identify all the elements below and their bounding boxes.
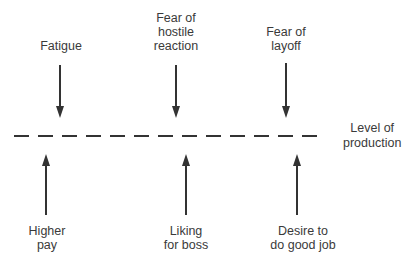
- arrow-down-layoff: [282, 63, 290, 118]
- label-fear-layoff: Fear of layoff: [266, 25, 306, 53]
- label-fear-hostile-reaction: Fear of hostile reaction: [154, 11, 198, 53]
- label-fatigue: Fatigue: [40, 39, 82, 53]
- arrow-up-boss: [182, 154, 190, 215]
- label-level-of-production: Level of production: [343, 121, 401, 151]
- arrow-down-fatigue: [56, 65, 64, 118]
- label-desire-good-job: Desire to do good job: [270, 224, 335, 252]
- arrow-up-pay: [42, 154, 50, 215]
- label-higher-pay: Higher pay: [29, 224, 66, 252]
- arrow-down-hostile: [172, 65, 180, 118]
- arrow-up-job: [293, 154, 301, 215]
- label-liking-for-boss: Liking for boss: [164, 224, 208, 252]
